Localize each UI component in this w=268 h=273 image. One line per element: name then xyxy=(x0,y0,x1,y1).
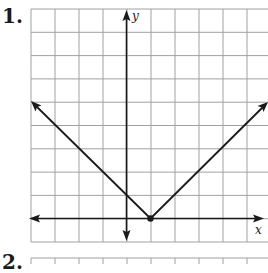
x-axis-label: x xyxy=(255,223,262,237)
y-axis-label: y xyxy=(131,9,139,23)
grid-lines xyxy=(31,9,268,242)
problem-2-number: 2. xyxy=(2,250,23,273)
vertex-point xyxy=(147,215,153,221)
function-curve xyxy=(31,101,268,222)
problem-2-grid-top xyxy=(31,258,268,264)
